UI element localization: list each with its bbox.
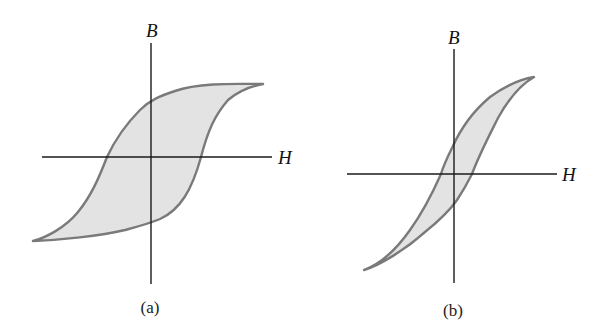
hysteresis-figure: B H (a) B H (b)	[0, 0, 603, 335]
panel-caption-a: (a)	[141, 298, 160, 317]
panel-caption-b: (b)	[443, 301, 463, 320]
hysteresis-loop-a	[33, 84, 263, 241]
b-axis-label-a: B	[146, 20, 158, 41]
b-axis-label-b: B	[448, 27, 460, 48]
panel-b: B H (b)	[347, 27, 577, 320]
panel-a: B H (a)	[33, 20, 293, 317]
h-axis-label-b: H	[561, 164, 577, 185]
h-axis-label-a: H	[277, 147, 293, 168]
